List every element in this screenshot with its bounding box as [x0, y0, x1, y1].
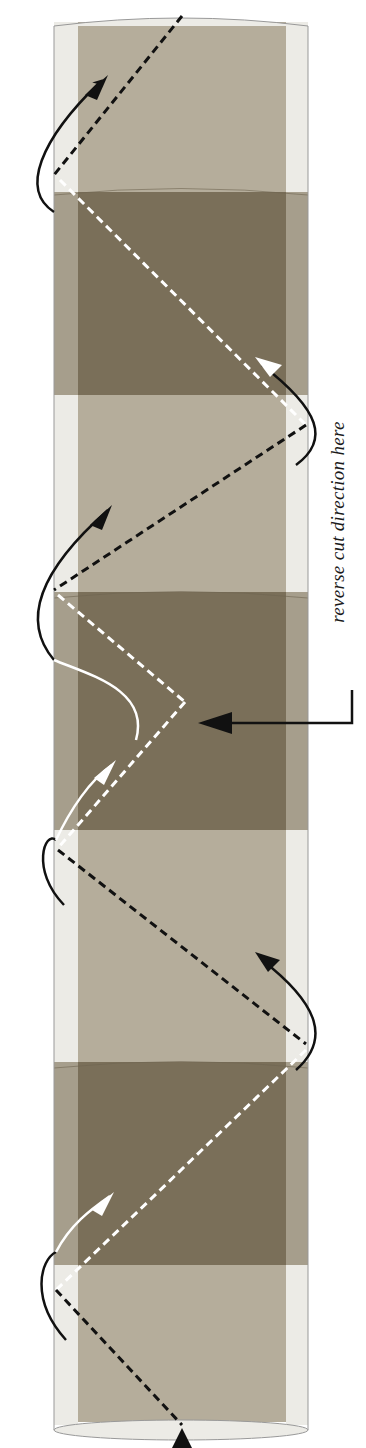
- reverse-cut-label: reverse cut direction here: [316, 362, 366, 682]
- cylinder-body: [54, 18, 308, 1440]
- reverse-cut-text: reverse cut direction here: [327, 421, 349, 622]
- cylinder-diagram: [0, 0, 366, 1448]
